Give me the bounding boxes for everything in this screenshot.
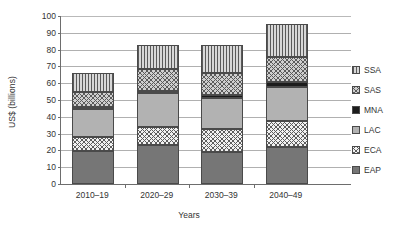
bar-segment-eap[interactable] [72, 151, 114, 184]
y-tick-label: 40 [30, 113, 56, 121]
bar-segment-mna[interactable] [72, 107, 114, 110]
y-tick-mark [58, 16, 61, 17]
y-tick-mark [58, 33, 61, 34]
y-tick-mark [58, 117, 61, 118]
bar-segment-mna[interactable] [266, 82, 308, 86]
bar-1[interactable] [72, 16, 114, 184]
solid-light-gray-swatch [352, 126, 360, 134]
legend-item-eca[interactable]: ECA [352, 140, 404, 160]
bar-segment-sas[interactable] [137, 69, 179, 91]
y-tick-label: 70 [30, 62, 56, 70]
y-tick-mark [58, 83, 61, 84]
legend-item-eap[interactable]: EAP [352, 160, 404, 180]
bar-segment-lac[interactable] [266, 87, 308, 121]
y-tick-mark [58, 150, 61, 151]
legend-item-mna[interactable]: MNA [352, 100, 404, 120]
cross-hatch-light-swatch [352, 146, 360, 154]
x-tick-label: 2030–39 [186, 190, 256, 200]
bar-4[interactable] [266, 16, 308, 184]
y-tick-label: 60 [30, 79, 56, 87]
bar-segment-eca[interactable] [137, 127, 179, 145]
y-tick-label: 0 [30, 180, 56, 188]
x-tick-label: 2020–29 [122, 190, 192, 200]
y-tick-mark [58, 167, 61, 168]
y-tick-mark [58, 50, 61, 51]
x-axis-tick-labels: 2010–192020–292030–392040–49 [60, 190, 318, 204]
legend-item-label: ECA [364, 145, 381, 155]
stacked-bar-chart: US$ (billions) 1009080706050403020100 20… [0, 0, 405, 238]
bar-2[interactable] [137, 16, 179, 184]
chart-legend: SSASASMNALACECAEAP [352, 60, 404, 180]
legend-item-sas[interactable]: SAS [352, 80, 404, 100]
y-tick-mark [58, 100, 61, 101]
bar-3[interactable] [201, 16, 243, 184]
bar-segment-lac[interactable] [137, 93, 179, 127]
y-tick-mark [58, 66, 61, 67]
bar-segment-ssa[interactable] [137, 45, 179, 69]
bar-segment-lac[interactable] [72, 109, 114, 137]
legend-item-label: MNA [364, 105, 383, 115]
y-axis-title: US$ (billions) [4, 52, 20, 152]
legend-item-label: SAS [364, 85, 381, 95]
legend-item-ssa[interactable]: SSA [352, 60, 404, 80]
x-axis-title: Years [60, 210, 318, 220]
legend-item-label: LAC [364, 125, 381, 135]
solid-black-swatch [352, 106, 360, 114]
y-axis-title-text: US$ (billions) [7, 76, 17, 128]
x-tick-mark [254, 184, 255, 188]
y-tick-mark [58, 184, 61, 185]
y-tick-label: 100 [30, 12, 56, 20]
y-tick-label: 90 [30, 29, 56, 37]
legend-item-label: EAP [364, 165, 381, 175]
bar-segment-eap[interactable] [137, 145, 179, 184]
y-tick-label: 30 [30, 130, 56, 138]
bar-segment-sas[interactable] [72, 92, 114, 107]
cross-hatch-gray-swatch [352, 86, 360, 94]
y-tick-label: 50 [30, 96, 56, 104]
bar-segment-eca[interactable] [201, 129, 243, 153]
x-tick-mark [189, 184, 190, 188]
bar-segment-lac[interactable] [201, 98, 243, 128]
bar-segment-sas[interactable] [201, 73, 243, 95]
bar-segment-mna[interactable] [201, 95, 243, 98]
bar-segment-ssa[interactable] [201, 45, 243, 73]
y-tick-label: 80 [30, 46, 56, 54]
solid-dark-gray-swatch [352, 166, 360, 174]
plot-area [60, 16, 318, 184]
legend-item-lac[interactable]: LAC [352, 120, 404, 140]
bar-segment-eca[interactable] [266, 121, 308, 147]
y-tick-mark [58, 134, 61, 135]
bar-segment-eca[interactable] [72, 137, 114, 151]
bar-segment-eap[interactable] [201, 152, 243, 184]
x-tick-label: 2010–19 [57, 190, 127, 200]
bar-segment-mna[interactable] [137, 91, 179, 94]
bar-segment-sas[interactable] [266, 57, 308, 82]
gridline [61, 184, 351, 185]
y-tick-label: 20 [30, 146, 56, 154]
x-tick-mark [125, 184, 126, 188]
y-axis-tick-labels: 1009080706050403020100 [20, 0, 56, 238]
vertical-stripes-swatch [352, 66, 360, 74]
x-tick-label: 2040–49 [251, 190, 321, 200]
bar-segment-ssa[interactable] [266, 24, 308, 57]
bar-segment-eap[interactable] [266, 147, 308, 184]
y-tick-label: 10 [30, 163, 56, 171]
bar-segment-ssa[interactable] [72, 73, 114, 91]
legend-item-label: SSA [364, 65, 381, 75]
